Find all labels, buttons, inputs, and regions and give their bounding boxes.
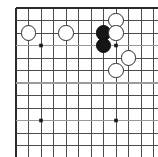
go-stone-white-6[interactable] bbox=[121, 50, 136, 65]
star-point-0 bbox=[39, 44, 43, 48]
go-stone-black-5[interactable] bbox=[96, 38, 111, 53]
go-stone-white-7[interactable] bbox=[108, 63, 123, 78]
go-board-grid[interactable] bbox=[0, 0, 158, 157]
go-stone-white-0[interactable] bbox=[21, 25, 36, 40]
go-stone-white-1[interactable] bbox=[58, 25, 73, 40]
star-point-1 bbox=[114, 44, 118, 48]
star-point-3 bbox=[114, 119, 118, 123]
go-stone-white-4[interactable] bbox=[108, 25, 123, 40]
star-point-2 bbox=[39, 119, 43, 123]
go-board-diagram bbox=[0, 0, 158, 157]
